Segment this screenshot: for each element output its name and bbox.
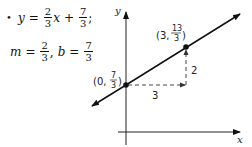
point2-num: 13 xyxy=(172,24,182,33)
graph-line-upper xyxy=(126,14,240,85)
point2-den: 3 xyxy=(174,34,179,43)
point2-open: (3, xyxy=(156,30,169,41)
point-intercept xyxy=(123,82,129,88)
y-axis-label: y xyxy=(114,5,121,16)
rise-label: 2 xyxy=(191,65,197,76)
run-label: 3 xyxy=(152,90,158,101)
point1-open: (0, xyxy=(93,76,106,87)
point1-num: 7 xyxy=(111,71,116,80)
graph-line xyxy=(92,85,126,106)
x-axis-label: x xyxy=(237,134,243,145)
graph: y x (0, 7 3 ) (3, 13 3 ) 3 2 xyxy=(0,0,252,147)
point1-close: ) xyxy=(118,76,122,87)
point2-close: ) xyxy=(182,30,186,41)
point-second xyxy=(183,44,189,50)
point1-den: 3 xyxy=(111,81,116,90)
